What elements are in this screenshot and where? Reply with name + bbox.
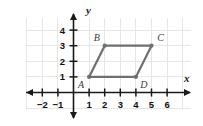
x-tick-label: −1 [52,99,64,110]
y-tick-label: 3 [60,40,65,51]
x-tick-label: 4 [133,99,139,110]
x-tick-label: −2 [37,99,48,110]
y-axis-label: y [84,4,91,16]
x-axis-label: x [183,72,190,84]
vertex-dot-d [134,75,138,79]
y-tick-label: 1 [60,71,66,82]
x-tick-label: 5 [149,99,155,110]
x-tick-label: 2 [102,99,107,110]
x-tick-label: 3 [118,99,123,110]
x-tick-label: 1 [86,99,92,110]
y-tick-label: 2 [60,56,65,67]
vertex-dot-b [103,44,107,48]
vertex-dot-c [149,44,153,48]
x-tick-label: 6 [164,99,169,110]
vertex-label-d: D [139,79,148,90]
vertex-label-c: C [157,32,164,43]
vertex-label-b: B [94,32,100,43]
vertex-dot-a [87,75,91,79]
y-tick-label: 4 [60,25,66,36]
coordinate-plane-figure: −2−11234561234 ABCD y x [0,0,203,126]
coordinate-plane-svg: −2−11234561234 ABCD y x [0,0,203,126]
vertex-label-a: A [77,79,85,90]
